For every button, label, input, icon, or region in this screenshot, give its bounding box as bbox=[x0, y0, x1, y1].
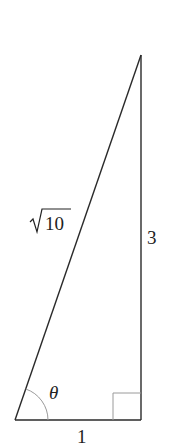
angle-arc bbox=[26, 389, 48, 420]
opposite-label: 3 bbox=[147, 227, 157, 248]
hypotenuse-label: 10 bbox=[30, 209, 71, 234]
hypotenuse-value: 10 bbox=[45, 213, 64, 234]
triangle-diagram: θ 1 3 10 bbox=[0, 0, 173, 447]
angle-label: θ bbox=[49, 382, 58, 403]
right-angle-marker bbox=[113, 393, 141, 420]
hypotenuse-side bbox=[15, 55, 141, 420]
adjacent-label: 1 bbox=[77, 426, 87, 447]
